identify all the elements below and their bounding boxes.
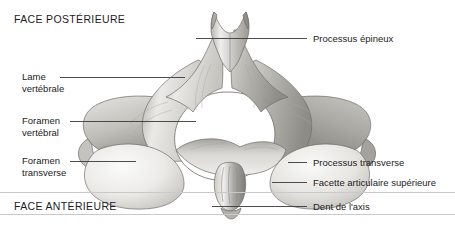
callout-label-processus-epineux: Processus épineux xyxy=(313,33,393,45)
callout-label-foramen-vertebral: Foramen vertébral xyxy=(22,115,60,138)
orientation-label-posterior: FACE POSTÉRIEURE xyxy=(14,13,125,25)
divider-posterior-anterior xyxy=(0,192,455,193)
callout-label-processus-transverse: Processus transverse xyxy=(313,157,404,169)
callout-label-dent-de-laxis: Dent de l'axis xyxy=(313,201,370,213)
callout-label-facette-articulaire-superieure: Facette articulaire supérieure xyxy=(313,177,436,189)
figure-canvas: FACE POSTÉRIEURE FACE ANTÉRIEURE Process… xyxy=(0,0,455,226)
callout-label-lame-vertebrale: Lame vertébrale xyxy=(22,71,64,94)
divider-bottom xyxy=(0,214,455,215)
callout-label-foramen-transverse: Foramen transverse xyxy=(22,155,66,178)
orientation-label-anterior: FACE ANTÉRIEURE xyxy=(14,200,117,212)
